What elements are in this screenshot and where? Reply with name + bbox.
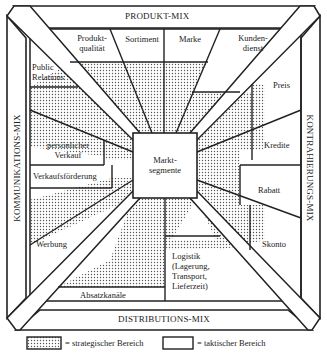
rabatt-label: Rabatt [258, 185, 280, 195]
public-relations-label: Public Relations [32, 62, 64, 82]
marktsegmente-line2: segmente [133, 165, 197, 175]
kontrahierungs-mix-label: KONTRAHIERUNGS-MIX [305, 113, 315, 223]
legend-strategic-swatch [27, 337, 61, 349]
werbung-label: Werbung [36, 239, 67, 249]
legend-tactical-swatch [163, 337, 193, 349]
logistik-line1: Logistik [172, 251, 210, 261]
preis-label: Preis [273, 80, 290, 90]
persoenlicher-verkauf-line1: persönlicher [38, 140, 98, 150]
produktqualitaet-label: Produkt- qualität [64, 33, 120, 53]
marktsegmente-label: Markt- segmente [133, 155, 197, 175]
skonto-label: Skonto [262, 239, 286, 249]
legend-tactical-label: = taktischer Bereich [197, 338, 266, 348]
kredite-label: Kredite [264, 140, 290, 150]
distributions-mix-label: DISTRIBUTIONS-MIX [118, 314, 210, 324]
logistik-line3: Transport, [172, 271, 210, 281]
sortiment-label: Sortiment [117, 34, 167, 44]
public-relations-line2: Relations [32, 72, 64, 82]
marketing-mix-diagram: PRODUKT-MIX DISTRIBUTIONS-MIX KOMMUNIKAT… [0, 0, 327, 356]
logistik-line2: (Lagerung, [172, 261, 210, 271]
public-relations-line1: Public [32, 62, 64, 72]
kundendienst-line2: dienst [228, 43, 278, 53]
kundendienst-line1: Kunden- [228, 33, 278, 43]
absatzkanaele-label: Absatzkanäle [80, 290, 126, 300]
logistik-label: Logistik (Lagerung, Transport, Lieferzei… [172, 251, 210, 291]
kommunikations-mix-label: KOMMUNIKATIONS-MIX [12, 113, 22, 223]
kundendienst-label: Kunden- dienst [228, 33, 278, 53]
marktsegmente-line1: Markt- [133, 155, 197, 165]
produkt-mix-label: PRODUKT-MIX [125, 11, 189, 21]
legend-strategic-label: = strategischer Bereich [65, 338, 143, 348]
produktqualitaet-line2: qualität [64, 43, 120, 53]
verkaufsfoerderung-label: Verkaufsförderung [33, 171, 97, 181]
persoenlicher-verkauf-label: persönlicher Verkauf [38, 140, 98, 160]
persoenlicher-verkauf-line2: Verkauf [38, 150, 98, 160]
produktqualitaet-line1: Produkt- [64, 33, 120, 43]
logistik-line4: Lieferzeit) [172, 281, 210, 291]
marke-label: Marke [170, 34, 210, 44]
